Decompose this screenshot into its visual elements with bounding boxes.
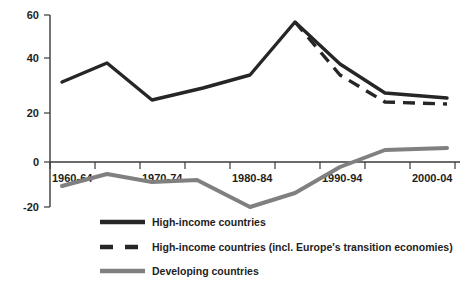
- legend-label-high-income-incl-transition-economies: High-income countries (incl. Europe's tr…: [152, 241, 453, 253]
- chart-figure: 60 40 20 0 -20 1960-64 1970-74 1980-84 1…: [0, 0, 465, 286]
- legend-item-high-income-countries: High-income countries: [100, 216, 266, 228]
- legend-label-high-income-countries: High-income countries: [152, 216, 266, 228]
- series-line-high-income-incl-transition-economies: [295, 22, 447, 104]
- x-tick-label-2000-04: 2000-04: [412, 172, 453, 184]
- legend-item-developing-countries: Developing countries: [100, 265, 259, 277]
- x-tick-label-1980-84: 1980-84: [232, 172, 273, 184]
- series-line-high-income-countries: [62, 22, 447, 100]
- line-chart: 60 40 20 0 -20 1960-64 1970-74 1980-84 1…: [0, 0, 465, 286]
- y-tick-label-60: 60: [27, 9, 39, 21]
- legend-label-developing-countries: Developing countries: [152, 265, 259, 277]
- chart-legend: High-income countries High-income countr…: [100, 216, 453, 277]
- y-tick-label-neg20: -20: [23, 201, 39, 213]
- legend-item-high-income-incl-transition-economies: High-income countries (incl. Europe's tr…: [100, 241, 453, 253]
- x-tick-marks: [50, 162, 455, 169]
- y-tick-label-20: 20: [27, 107, 39, 119]
- y-tick-label-40: 40: [27, 52, 39, 64]
- y-tick-marks: [44, 15, 50, 207]
- y-tick-label-0: 0: [33, 156, 39, 168]
